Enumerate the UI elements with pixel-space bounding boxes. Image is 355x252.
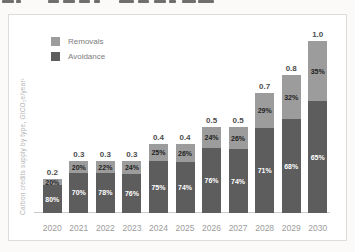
removals-pct-label: 26% bbox=[231, 135, 245, 142]
avoidance-segment-2025: 74% bbox=[176, 162, 195, 213]
chart-panel: Carbon credits supply by type, GtCO₂e/ye… bbox=[8, 14, 347, 241]
bar-column-2022: 0.322%78% bbox=[92, 13, 119, 213]
avoidance-pct-label: 76% bbox=[205, 177, 219, 184]
text-fragment bbox=[182, 0, 196, 3]
total-label-2020: 0.2 bbox=[47, 168, 58, 177]
avoidance-segment-2024: 75% bbox=[149, 161, 168, 213]
removals-pct-label: 25% bbox=[151, 149, 165, 156]
bar-column-2027: 0.526%74% bbox=[225, 13, 252, 213]
avoidance-segment-2022: 78% bbox=[96, 173, 115, 213]
removals-pct-label: 20% bbox=[45, 179, 59, 186]
text-fragment bbox=[79, 0, 90, 3]
text-fragment bbox=[154, 0, 166, 3]
stacked-bar-2030: 1.035%65% bbox=[308, 41, 327, 213]
avoidance-pct-label: 80% bbox=[45, 196, 59, 203]
avoidance-segment-2021: 70% bbox=[69, 173, 88, 213]
x-axis-labels: 2020202120222023202420252026202720282029… bbox=[39, 223, 331, 233]
total-label-2028: 0.7 bbox=[259, 82, 270, 91]
avoidance-segment-2027: 74% bbox=[229, 149, 248, 213]
removals-segment-2023: 24% bbox=[122, 161, 141, 173]
stacked-bar-2021: 0.320%70% bbox=[69, 161, 88, 213]
avoidance-pct-label: 68% bbox=[284, 163, 298, 170]
bar-column-2030: 1.035%65% bbox=[304, 13, 331, 213]
text-fragment bbox=[48, 0, 59, 3]
total-label-2022: 0.3 bbox=[100, 150, 111, 159]
stacked-bar-2027: 0.526%74% bbox=[229, 127, 248, 213]
y-axis-label: Carbon credits supply by type, GtCO₂e/ye… bbox=[19, 37, 26, 215]
x-tick-2029: 2029 bbox=[278, 223, 305, 233]
removals-pct-label: 29% bbox=[258, 107, 272, 114]
total-label-2030: 1.0 bbox=[312, 30, 323, 39]
avoidance-pct-label: 78% bbox=[98, 189, 112, 196]
x-tick-2025: 2025 bbox=[172, 223, 199, 233]
removals-pct-label: 35% bbox=[311, 68, 325, 75]
removals-pct-label: 22% bbox=[98, 164, 112, 171]
bar-column-2021: 0.320%70% bbox=[66, 13, 93, 213]
stacked-bar-2025: 0.426%74% bbox=[176, 144, 195, 213]
removals-pct-label: 20% bbox=[72, 164, 86, 171]
removals-segment-2021: 20% bbox=[69, 161, 88, 172]
text-fragment bbox=[138, 0, 149, 3]
x-tick-2030: 2030 bbox=[304, 223, 331, 233]
text-fragment bbox=[2, 0, 14, 3]
removals-segment-2020: 20% bbox=[43, 179, 62, 186]
stacked-bar-2028: 0.729%71% bbox=[255, 93, 274, 213]
total-label-2026: 0.5 bbox=[206, 116, 217, 125]
total-label-2029: 0.8 bbox=[286, 64, 297, 73]
removals-segment-2022: 22% bbox=[96, 161, 115, 172]
bar-column-2026: 0.524%76% bbox=[198, 13, 225, 213]
avoidance-segment-2029: 68% bbox=[282, 119, 301, 213]
removals-pct-label: 24% bbox=[205, 134, 219, 141]
x-tick-2026: 2026 bbox=[198, 223, 225, 233]
avoidance-segment-2030: 65% bbox=[308, 101, 327, 213]
text-fragment bbox=[63, 0, 75, 3]
text-fragment bbox=[119, 0, 134, 3]
bar-column-2025: 0.426%74% bbox=[172, 13, 199, 213]
removals-pct-label: 26% bbox=[178, 150, 192, 157]
text-fragment bbox=[16, 0, 21, 3]
x-tick-2023: 2023 bbox=[119, 223, 146, 233]
avoidance-pct-label: 74% bbox=[231, 178, 245, 185]
removals-segment-2026: 24% bbox=[202, 127, 221, 148]
total-label-2023: 0.3 bbox=[126, 150, 137, 159]
total-label-2021: 0.3 bbox=[73, 150, 84, 159]
cropped-text-fragments bbox=[0, 0, 355, 4]
stacked-bar-2026: 0.524%76% bbox=[202, 127, 221, 213]
removals-pct-label: 24% bbox=[125, 164, 139, 171]
x-tick-2028: 2028 bbox=[251, 223, 278, 233]
total-label-2024: 0.4 bbox=[153, 133, 164, 142]
avoidance-segment-2028: 71% bbox=[255, 128, 274, 213]
bar-column-2024: 0.425%75% bbox=[145, 13, 172, 213]
removals-pct-label: 32% bbox=[284, 94, 298, 101]
text-fragment bbox=[198, 0, 214, 3]
bar-column-2029: 0.832%68% bbox=[278, 13, 305, 213]
avoidance-segment-2026: 76% bbox=[202, 148, 221, 213]
removals-segment-2030: 35% bbox=[308, 41, 327, 101]
stacked-bar-2024: 0.425%75% bbox=[149, 144, 168, 213]
stacked-bar-2023: 0.324%76% bbox=[122, 161, 141, 213]
text-fragment bbox=[94, 0, 100, 3]
total-label-2027: 0.5 bbox=[233, 116, 244, 125]
avoidance-segment-2020: 80% bbox=[43, 185, 62, 213]
bar-column-2020: 0.220%80% bbox=[39, 13, 66, 213]
removals-segment-2028: 29% bbox=[255, 93, 274, 128]
removals-segment-2029: 32% bbox=[282, 75, 301, 119]
removals-segment-2024: 25% bbox=[149, 144, 168, 161]
avoidance-pct-label: 71% bbox=[258, 167, 272, 174]
plot-area: 0.220%80%0.320%70%0.322%78%0.324%76%0.42… bbox=[39, 13, 331, 213]
stacked-bar-2020: 0.220%80% bbox=[43, 179, 62, 213]
stacked-bar-2022: 0.322%78% bbox=[96, 161, 115, 213]
x-tick-2022: 2022 bbox=[92, 223, 119, 233]
text-fragment bbox=[169, 0, 176, 3]
removals-segment-2025: 26% bbox=[176, 144, 195, 162]
avoidance-pct-label: 74% bbox=[178, 184, 192, 191]
stacked-bar-2029: 0.832%68% bbox=[282, 75, 301, 213]
bar-column-2023: 0.324%76% bbox=[119, 13, 146, 213]
avoidance-pct-label: 75% bbox=[151, 184, 165, 191]
x-tick-2020: 2020 bbox=[39, 223, 66, 233]
avoidance-segment-2023: 76% bbox=[122, 174, 141, 213]
x-tick-2021: 2021 bbox=[66, 223, 93, 233]
avoidance-pct-label: 70% bbox=[72, 189, 86, 196]
x-tick-2024: 2024 bbox=[145, 223, 172, 233]
bar-column-2028: 0.729%71% bbox=[251, 13, 278, 213]
